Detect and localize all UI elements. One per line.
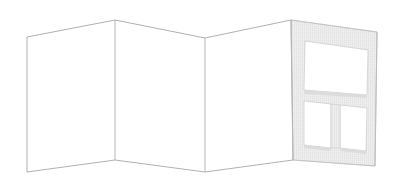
panel-mid-left-face: [115, 20, 205, 172]
drawing-canvas: Folded wall assembly elevation Three-fol…: [0, 0, 401, 189]
wall-assembly-drawing: [0, 0, 401, 189]
mullion-lower: [331, 104, 340, 148]
opening-upper: [304, 41, 368, 95]
panel-left-face: [27, 20, 115, 172]
opening-lower-right: [340, 105, 367, 151]
panel-mid-right-face: [205, 20, 293, 172]
opening-lower-left: [304, 101, 331, 148]
